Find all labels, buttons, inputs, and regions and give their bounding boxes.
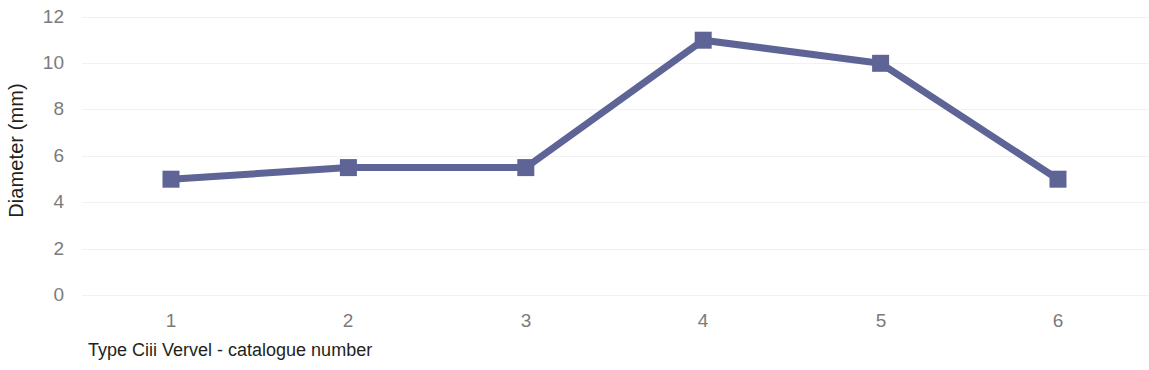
- data-point-marker: [163, 171, 180, 188]
- data-point-marker: [1050, 171, 1067, 188]
- data-point-marker: [872, 55, 889, 72]
- data-point-marker: [340, 159, 357, 176]
- data-point-marker: [517, 159, 534, 176]
- series-line-diameter: [171, 40, 1058, 179]
- series-markers-group: [163, 32, 1067, 188]
- line-chart: 12 10 8 6 4 2 0 Diameter (mm) 1 2 3 4 5 …: [0, 0, 1149, 370]
- data-point-marker: [695, 32, 712, 49]
- plot-area: [0, 0, 1149, 370]
